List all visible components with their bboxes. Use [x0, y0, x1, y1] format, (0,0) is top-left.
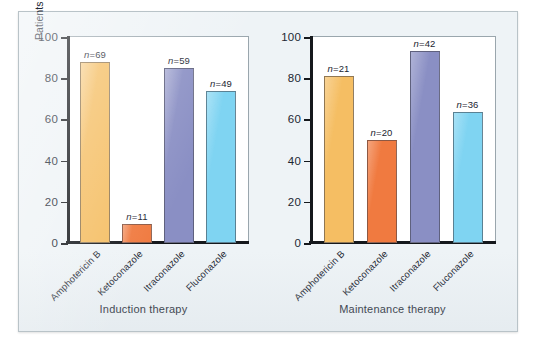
- bar-slot: n=36Fluconazole: [453, 37, 483, 243]
- bar-value-label: n=21: [327, 63, 349, 74]
- bar-fluconazole[interactable]: n=49: [206, 91, 236, 243]
- bar-group-maintenance: n=21Amphotericin Bn=20Ketoconazolen=42It…: [311, 37, 495, 243]
- y-tick-label: 40: [288, 155, 301, 167]
- y-tick-label: 60: [45, 113, 58, 125]
- y-tick-label: 100: [38, 31, 58, 43]
- bar-value-label: n=69: [84, 49, 106, 60]
- plot-area-induction: 020406080100 n=69Amphotericin Bn=11Ketoc…: [67, 36, 249, 244]
- bar-group-induction: n=69Amphotericin Bn=11Ketoconazolen=59It…: [68, 37, 248, 243]
- x-category-label: Fluconazole: [184, 248, 229, 293]
- panel-caption-induction: Induction therapy: [19, 303, 268, 315]
- y-tick-label: 40: [45, 155, 58, 167]
- bar-fluconazole[interactable]: n=36: [453, 112, 483, 243]
- x-category-label: Itraconazole: [141, 248, 187, 294]
- bar-slot: n=59Itraconazole: [164, 37, 194, 243]
- bar-value-label: n=11: [126, 211, 148, 222]
- bar-slot: n=21Amphotericin B: [324, 37, 354, 243]
- y-tick-label: 0: [51, 237, 58, 249]
- y-tick-label: 80: [288, 72, 301, 84]
- bar-value-label: n=36: [456, 99, 478, 110]
- bar-value-label: n=49: [210, 78, 232, 89]
- y-tick-mark: [304, 202, 311, 204]
- x-category-label: Itraconazole: [387, 248, 433, 294]
- y-tick-mark: [61, 161, 68, 163]
- panel-container: Patients with AIDS responding to therapy…: [19, 12, 517, 331]
- figure-frame: Patients with AIDS responding to therapy…: [18, 11, 518, 332]
- y-tick-mark: [304, 78, 311, 80]
- y-tick-mark: [61, 78, 68, 80]
- y-tick-label: 0: [294, 237, 301, 249]
- bar-slot: n=69Amphotericin B: [80, 37, 110, 243]
- bar-amphotericin-b[interactable]: n=21: [324, 76, 354, 243]
- bar-itraconazole[interactable]: n=59: [164, 68, 194, 243]
- y-tick-mark: [61, 202, 68, 204]
- bar-slot: n=11Ketoconazole: [122, 37, 152, 243]
- chart-panel-maintenance: 020406080100 n=21Amphotericin Bn=20Ketoc…: [268, 12, 517, 331]
- bar-ketoconazole[interactable]: n=11: [122, 224, 152, 243]
- y-tick-label: 60: [288, 113, 301, 125]
- panel-caption-maintenance: Maintenance therapy: [268, 303, 517, 315]
- y-tick-mark: [61, 119, 68, 121]
- y-tick-label: 80: [45, 72, 58, 84]
- bar-value-label: n=42: [413, 38, 435, 49]
- chart-panel-induction: Patients with AIDS responding to therapy…: [19, 12, 268, 331]
- y-tick-mark: [61, 243, 68, 245]
- y-tick-label: 20: [45, 196, 58, 208]
- bar-ketoconazole[interactable]: n=20: [367, 140, 397, 243]
- plot-area-maintenance: 020406080100 n=21Amphotericin Bn=20Ketoc…: [310, 36, 496, 244]
- y-tick-mark: [304, 161, 311, 163]
- bar-slot: n=42Itraconazole: [410, 37, 440, 243]
- bar-slot: n=49Fluconazole: [206, 37, 236, 243]
- x-category-label: Fluconazole: [430, 248, 475, 293]
- y-tick-label: 20: [288, 196, 301, 208]
- x-category-label: Amphotericin B: [291, 248, 346, 303]
- y-tick-mark: [304, 37, 311, 39]
- bar-slot: n=20Ketoconazole: [367, 37, 397, 243]
- bar-itraconazole[interactable]: n=42: [410, 51, 440, 243]
- y-tick-mark: [61, 37, 68, 39]
- x-category-label: Amphotericin B: [48, 248, 103, 303]
- y-tick-mark: [304, 243, 311, 245]
- y-tick-label: 100: [281, 31, 301, 43]
- bar-value-label: n=59: [168, 55, 190, 66]
- bar-value-label: n=20: [370, 127, 392, 138]
- y-tick-mark: [304, 119, 311, 121]
- bar-amphotericin-b[interactable]: n=69: [80, 62, 110, 243]
